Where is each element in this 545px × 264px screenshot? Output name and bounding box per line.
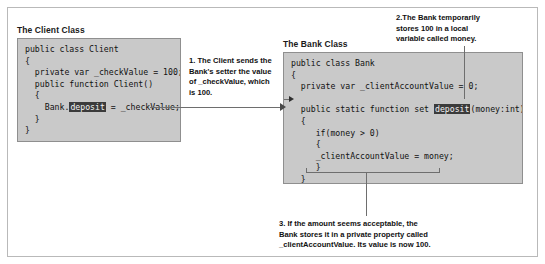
annotation-line: 3. If the amount seems acceptable, the: [279, 219, 459, 230]
leader-bracket-left-tick: [306, 168, 307, 173]
annotation-line: of _checkValue, which: [189, 77, 281, 88]
code-line: private var _clientAccountValue = 0;: [291, 81, 516, 93]
leader-bracket-bank-body: [306, 172, 440, 173]
annotation-step-2: 2.The Bank temporarilystores 100 in a lo…: [396, 13, 516, 45]
leader-line-client-to-bank: [150, 107, 282, 108]
annotation-line: 1. The Client sends the: [189, 56, 281, 67]
bank-class-caption: The Bank Class: [283, 39, 348, 49]
code-line: public class Client: [25, 44, 174, 56]
figure-canvas: The Client Class public class Client{ pr…: [0, 0, 545, 264]
annotation-line: 2.The Bank temporarily: [396, 13, 516, 24]
code-line: public static function set deposit(money…: [291, 104, 516, 116]
code-line: _clientAccountValue = money;: [291, 151, 516, 163]
code-line: }: [291, 174, 516, 184]
arrowhead-into-bank-icon: [280, 103, 286, 111]
annotation-line: Bank stores it in a private property cal…: [279, 230, 459, 241]
code-text: Bank.: [25, 102, 69, 112]
code-line: public class Bank: [291, 58, 516, 70]
annotation-line: variable called money.: [396, 34, 516, 45]
annotation-line: is 100.: [189, 88, 281, 99]
code-line: {: [291, 139, 516, 151]
bank-class-code-block: public class Bank{ private var _clientAc…: [283, 52, 523, 184]
arrowhead-setter-icon: [289, 96, 294, 102]
leader-line-bracket-to-annotation-3: [366, 172, 367, 216]
code-line: {: [25, 90, 174, 102]
client-class-code-block: public class Client{ private var _checkV…: [17, 38, 181, 142]
code-line: [291, 93, 516, 105]
client-class-caption: The Client Class: [17, 25, 85, 35]
code-text: (money:int):void: [470, 104, 523, 114]
code-line: {: [291, 116, 516, 128]
annotation-line: _clientAccountValue. Its value is now 10…: [279, 240, 459, 251]
leader-bracket-right-tick: [439, 168, 440, 173]
code-line: {: [291, 70, 516, 82]
code-line: private var _checkValue = 100;: [25, 67, 174, 79]
code-text: public static function set: [291, 104, 434, 114]
code-line: }: [25, 114, 174, 126]
annotation-step-3: 3. If the amount seems acceptable, theBa…: [279, 219, 459, 251]
annotation-step-1: 1. The Client sends theBank's setter the…: [189, 56, 281, 98]
code-line: if(money > 0): [291, 128, 516, 140]
code-line: }: [25, 125, 174, 137]
leader-line-annotation-2-to-deposit: [464, 46, 465, 99]
code-line: {: [25, 56, 174, 68]
annotation-line: stores 100 in a local: [396, 24, 516, 35]
highlighted-token: deposit: [434, 104, 471, 114]
code-line: public function Client(): [25, 79, 174, 91]
annotation-line: Bank's setter the value: [189, 67, 281, 78]
highlighted-token: deposit: [69, 102, 106, 112]
